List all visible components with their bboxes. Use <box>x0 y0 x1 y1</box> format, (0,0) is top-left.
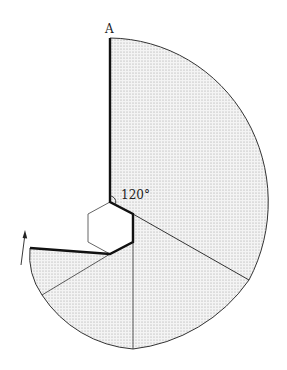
unwinding-spiral-diagram: 120° A <box>0 0 287 370</box>
direction-arrow-icon <box>21 230 27 265</box>
point-a-label: A <box>104 22 114 36</box>
angle-label: 120° <box>121 188 150 202</box>
